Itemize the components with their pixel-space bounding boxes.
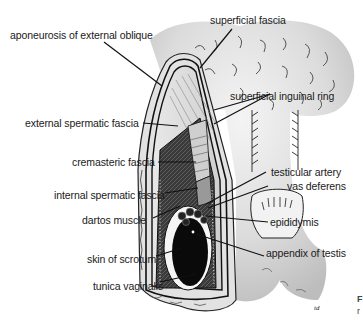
anatomy-illustration: td xyxy=(0,0,363,324)
label-cremasteric-fascia: cremasteric fascia xyxy=(72,156,155,168)
label-tunica-vaginalis: tunica vaginalis xyxy=(93,280,163,292)
label-epididymis: epididymis xyxy=(270,216,319,228)
label-vas-deferens: vas deferens xyxy=(287,180,346,192)
artist-signature: td xyxy=(314,304,320,312)
label-superficial-inguinal-ring: superficial inguinal ring xyxy=(230,90,334,102)
label-internal-spermatic-fascia: internal spermatic fascia xyxy=(54,189,165,201)
cropped-caption-line2: r xyxy=(357,306,360,316)
label-appendix-of-testis: appendix of testis xyxy=(266,247,346,259)
cropped-caption-line1: F xyxy=(357,294,363,304)
label-skin-of-scrotum: skin of scrotum xyxy=(87,253,156,265)
label-aponeurosis-of-external-oblique: aponeurosis of external oblique xyxy=(10,29,153,41)
label-dartos-muscle: dartos muscle xyxy=(82,214,146,226)
label-superficial-fascia: superficial fascia xyxy=(210,14,286,26)
label-external-spermatic-fascia: external spermatic fascia xyxy=(25,117,139,129)
label-testicular-artery: testicular artery xyxy=(271,166,341,178)
diagram-canvas: td aponeurosis of external oblique super… xyxy=(0,0,363,324)
